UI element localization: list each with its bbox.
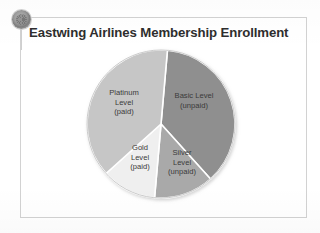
slice-label-gold-line1: Gold <box>117 143 163 153</box>
slice-label-silver: Silver Level (unpaid) <box>159 148 205 177</box>
slice-label-silver-line2: Level <box>159 158 205 168</box>
slice-label-silver-line1: Silver <box>159 148 205 158</box>
title-block: Eastwing Airlines Membership Enrollment <box>29 24 301 44</box>
pie-chart: Basic Level (unpaid) Platinum Level (pai… <box>22 46 305 216</box>
page-title: Eastwing Airlines Membership Enrollment <box>29 24 301 42</box>
pie-svg <box>85 48 237 200</box>
logo-connector-line <box>21 28 22 50</box>
slice-label-gold-line3: (paid) <box>117 162 163 172</box>
slice-label-silver-line3: (unpaid) <box>159 167 205 177</box>
slice-label-basic-line1: Basic Level <box>162 91 226 101</box>
slice-label-platinum: Platinum Level (paid) <box>96 88 152 117</box>
airline-seal-logo-icon <box>12 10 31 29</box>
slice-label-platinum-line1: Platinum <box>96 88 152 98</box>
slice-label-gold-line2: Level <box>117 153 163 163</box>
pie-chart-graphic: Basic Level (unpaid) Platinum Level (pai… <box>85 48 237 200</box>
slide-canvas: Eastwing Airlines Membership Enrollment … <box>0 0 320 233</box>
slice-label-basic: Basic Level (unpaid) <box>162 91 226 110</box>
slice-label-platinum-line3: (paid) <box>96 107 152 117</box>
slice-label-platinum-line2: Level <box>96 98 152 108</box>
slice-label-gold: Gold Level (paid) <box>117 143 163 172</box>
slice-label-basic-line2: (unpaid) <box>162 101 226 111</box>
